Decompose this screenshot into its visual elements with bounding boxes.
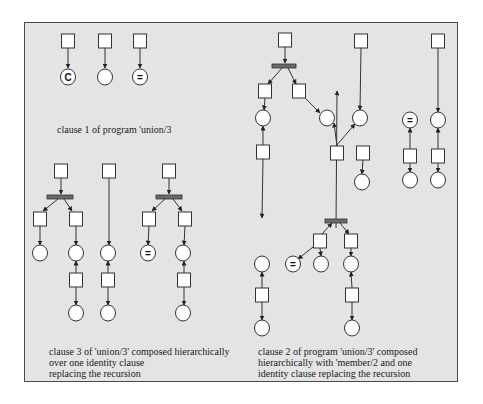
transition-box <box>178 273 191 287</box>
arc-arrow <box>360 48 361 110</box>
transition-box <box>404 149 417 163</box>
transition-box <box>279 33 292 47</box>
transition-box <box>163 164 176 178</box>
transition-box <box>70 273 83 287</box>
caption-line: clause 3 of 'union/3' composed hierarchi… <box>49 346 230 357</box>
transition-box <box>256 288 269 302</box>
place-circle <box>101 305 116 321</box>
arc-arrow <box>268 68 282 84</box>
labeled-place: = <box>286 256 301 272</box>
place-label: = <box>145 248 151 259</box>
caption-line: clause 2 of program 'union/3' composed <box>258 346 417 357</box>
transition-box <box>331 146 344 160</box>
transition-box <box>55 164 68 178</box>
hierarchy-bar <box>47 195 73 199</box>
arc-arrow <box>173 199 182 211</box>
transition-box <box>34 212 47 226</box>
place-label: = <box>290 259 296 270</box>
transition-box <box>357 146 370 160</box>
arcs <box>40 47 438 320</box>
place-circle <box>255 256 270 272</box>
place-circle <box>256 110 271 126</box>
place-circle <box>320 110 335 126</box>
transition-box <box>134 34 147 48</box>
transition-box <box>99 34 112 48</box>
place-circle <box>176 245 191 261</box>
arc-arrow <box>262 159 263 218</box>
arc-arrow <box>152 199 165 211</box>
transition-box <box>179 212 192 226</box>
place-label: = <box>137 72 143 83</box>
transition-box <box>432 149 445 163</box>
place-circle <box>255 320 270 336</box>
caption-line: identity clause replacing the recursion <box>258 368 417 379</box>
arc-arrow <box>288 68 296 84</box>
caption-clause-3: clause 3 of 'union/3' composed hierarchi… <box>49 346 230 379</box>
place-circle <box>33 245 48 261</box>
place-circle <box>69 245 84 261</box>
transition-box <box>345 234 358 248</box>
caption-line: clause 1 of program 'union/3 <box>57 124 172 135</box>
arc-arrow <box>64 199 72 211</box>
transition-box <box>432 34 445 48</box>
place-label: C <box>64 72 71 83</box>
caption-line: replacing the recursion <box>49 368 230 379</box>
place-circle <box>344 256 359 272</box>
place-circle <box>355 174 370 190</box>
caption-line: hierarchically with 'member/2 and one <box>258 357 417 368</box>
place-circle <box>353 110 368 126</box>
labeled-place: = <box>133 69 148 85</box>
labeled-place: = <box>141 245 156 261</box>
labeled-place: C <box>61 69 76 85</box>
arc-arrow <box>351 272 352 288</box>
place-circle <box>345 320 360 336</box>
arc-arrow <box>340 223 349 234</box>
transition-box <box>102 273 115 287</box>
caption-clause-2: clause 2 of program 'union/3' composedhi… <box>258 346 417 379</box>
labeled-place: = <box>403 112 418 128</box>
place-circle <box>314 256 329 272</box>
arc-arrow <box>320 248 321 256</box>
transition-box <box>314 234 327 248</box>
place-circle <box>403 172 418 188</box>
arc-arrow <box>43 199 58 211</box>
place-circle <box>101 245 116 261</box>
transition-boxes <box>34 33 445 302</box>
arc-arrow <box>148 226 149 245</box>
transition-box <box>259 84 272 98</box>
arc-arrow <box>362 160 363 174</box>
arc-arrow <box>264 98 265 110</box>
transition-box <box>62 34 75 48</box>
place-circle <box>176 305 191 321</box>
transition-box <box>293 84 306 98</box>
transition-box <box>103 164 116 178</box>
arc-arrow <box>322 223 332 234</box>
arc-arrow <box>184 226 185 245</box>
arc-arrow <box>305 98 320 113</box>
place-circles: C==== <box>33 69 446 336</box>
place-circle <box>431 172 446 188</box>
hierarchy-bar <box>325 219 347 223</box>
caption-line: over one identity clause <box>49 357 230 368</box>
arc-arrow <box>336 124 355 146</box>
place-label: = <box>407 115 413 126</box>
place-circle <box>69 305 84 321</box>
transition-box <box>346 288 359 302</box>
transition-box <box>143 212 156 226</box>
place-circle <box>431 112 446 128</box>
transition-box <box>257 145 270 159</box>
transition-box <box>355 34 368 48</box>
petri-net-diagram: C==== <box>0 0 483 404</box>
place-circle <box>98 69 113 85</box>
transition-box <box>70 212 83 226</box>
caption-clause-1: clause 1 of program 'union/3 <box>57 124 172 135</box>
arc-arrow <box>298 247 313 259</box>
hierarchy-bar <box>156 195 182 199</box>
hierarchy-bar <box>272 64 296 68</box>
